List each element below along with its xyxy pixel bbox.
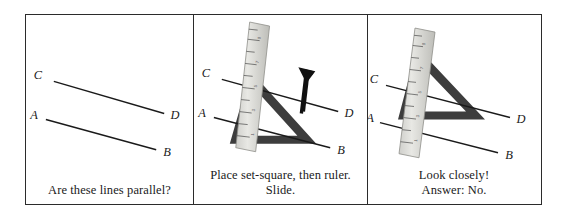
panel-2: 1 3 5 7 9 C D A B	[194, 15, 368, 204]
panel-1: C D A B Are these lines parallel?	[26, 15, 194, 204]
caption-line: Slide.	[194, 183, 367, 198]
caption-line: Look closely!	[368, 168, 540, 183]
label-d: D	[170, 107, 180, 121]
caption-line: Answer: No.	[368, 183, 540, 198]
panel-3: 1 3 5 7 9 C D A B Look closely! Answer: …	[368, 15, 540, 204]
label-c: C	[34, 68, 43, 82]
label-b: B	[163, 145, 171, 159]
label-c: C	[370, 72, 379, 86]
label-b: B	[505, 148, 513, 162]
line-cd	[54, 81, 164, 113]
caption-line: Are these lines parallel?	[26, 183, 193, 198]
label-d: D	[515, 112, 525, 126]
panel-1-drawing: C D A B	[26, 15, 193, 204]
line-ab	[46, 120, 156, 150]
label-a: A	[197, 105, 206, 119]
label-a: A	[29, 107, 38, 121]
label-c: C	[202, 66, 211, 80]
caption-line: Place set-square, then ruler.	[194, 168, 367, 183]
figure-frame: C D A B Are these lines parallel?	[25, 14, 542, 205]
label-a: A	[368, 111, 374, 125]
parallel-lines-figure: C D A B Are these lines parallel?	[0, 0, 563, 219]
label-b: B	[337, 143, 345, 157]
line-ab	[380, 123, 498, 153]
panel-1-caption: Are these lines parallel?	[26, 183, 193, 198]
ruler-panel-3: 1 3 5 7 9	[399, 28, 435, 158]
panel-2-caption: Place set-square, then ruler. Slide.	[194, 168, 367, 198]
label-d: D	[344, 105, 354, 119]
slide-arrow-icon	[298, 67, 315, 113]
panel-3-caption: Look closely! Answer: No.	[368, 168, 540, 198]
